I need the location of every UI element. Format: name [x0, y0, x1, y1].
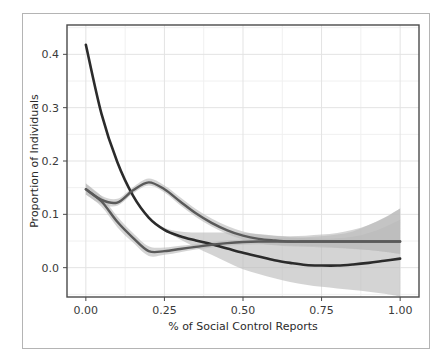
- y-tick-label: 0.0: [42, 262, 60, 275]
- y-tick-label: 0.3: [42, 102, 60, 115]
- x-tick-label: 0.50: [231, 304, 256, 317]
- x-axis: 0.000.250.500.751.00: [74, 297, 413, 317]
- y-tick-label: 0.4: [42, 48, 60, 61]
- x-tick-label: 0.75: [309, 304, 334, 317]
- y-tick-label: 0.1: [42, 208, 60, 221]
- y-axis: 0.00.10.20.30.4: [42, 48, 68, 274]
- x-tick-label: 1.00: [388, 304, 413, 317]
- chart-canvas: 0.000.250.500.751.00 0.00.10.20.30.4 % o…: [0, 0, 448, 362]
- y-tick-label: 0.2: [42, 155, 60, 168]
- x-tick-label: 0.25: [152, 304, 177, 317]
- y-axis-title: Proportion of Individuals: [28, 94, 41, 228]
- x-tick-label: 0.00: [74, 304, 99, 317]
- x-axis-title: % of Social Control Reports: [168, 320, 318, 333]
